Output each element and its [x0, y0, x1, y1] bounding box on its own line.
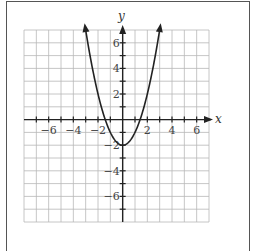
- x-tick-label: 2: [144, 124, 151, 137]
- y-tick-label: 6: [113, 37, 120, 50]
- x-tick-label: −4: [65, 124, 81, 137]
- x-tick-label: −6: [41, 124, 57, 137]
- x-axis-label: x: [215, 112, 222, 126]
- curve-arrow-icon: [83, 23, 90, 32]
- x-tick-label: 6: [193, 124, 200, 137]
- y-axis-label: y: [117, 9, 125, 23]
- y-axis-arrow-icon: [119, 25, 126, 34]
- x-axis-arrow-icon: [204, 116, 213, 123]
- y-tick-label: −2: [103, 139, 119, 152]
- y-tick-label: 2: [113, 88, 120, 101]
- x-tick-label: 4: [169, 124, 176, 137]
- curve-arrow-icon: [156, 23, 163, 32]
- y-tick-label: −4: [103, 165, 119, 178]
- x-tick-label: −2: [90, 124, 106, 137]
- y-tick-label: 4: [113, 62, 120, 75]
- y-tick-label: −6: [103, 190, 119, 203]
